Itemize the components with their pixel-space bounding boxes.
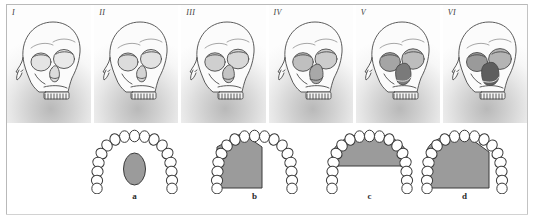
arch-label-d: d	[402, 191, 527, 201]
arch-label-a: a	[72, 191, 197, 201]
panel-label-3: III	[186, 8, 195, 18]
skull-panel-6: VI	[443, 5, 527, 123]
skull-icon	[11, 12, 87, 117]
arch-cell-b: b	[192, 128, 317, 212]
frame-bottom-border	[6, 214, 528, 215]
skull-icon	[98, 12, 174, 117]
skull-icon	[447, 12, 523, 117]
dental-arch-icon	[72, 128, 197, 194]
skull-icon	[185, 12, 261, 117]
arch-cell-d: d	[402, 128, 527, 212]
dental-arch-icon	[192, 128, 317, 194]
frame-right-border	[527, 4, 528, 215]
panel-label-2: II	[99, 8, 105, 18]
panel-label-6: VI	[448, 8, 456, 18]
palatal-lesion-shape	[124, 153, 146, 185]
dental-arch-icon	[402, 128, 527, 194]
skull-panel-3: III	[181, 5, 265, 123]
panel-label-5: V	[361, 8, 366, 18]
skull-panel-5: V	[356, 5, 440, 123]
skull-icon	[273, 12, 349, 117]
panel-label-1: I	[12, 8, 15, 18]
skull-icon	[360, 12, 436, 117]
skull-panel-4: IV	[269, 5, 353, 123]
skull-row: I	[7, 5, 527, 123]
skull-panel-1: I	[7, 5, 91, 123]
panel-label-4: IV	[274, 8, 282, 18]
dental-arch-row: a	[7, 128, 527, 212]
figure-plate: I	[0, 0, 533, 219]
arch-cell-a: a	[72, 128, 197, 212]
arch-label-b: b	[192, 191, 317, 201]
skull-panel-2: II	[94, 5, 178, 123]
